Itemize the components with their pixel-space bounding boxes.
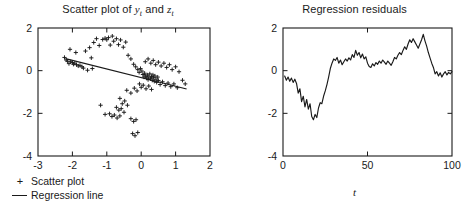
legend-label-regression: Regression line: [28, 188, 103, 202]
svg-text:-4: -4: [268, 150, 277, 162]
svg-text:0: 0: [271, 64, 277, 76]
svg-text:-1: -1: [102, 159, 111, 171]
scatter-points: [62, 34, 187, 138]
svg-text:2: 2: [271, 22, 277, 34]
svg-text:1: 1: [173, 159, 179, 171]
legend-item-regression: Regression line: [12, 188, 103, 202]
legend-item-scatter: + Scatter plot: [12, 174, 103, 188]
svg-text:2: 2: [207, 159, 213, 171]
regression-line: [66, 59, 187, 89]
line-segment-icon: [12, 189, 28, 201]
svg-text:-2: -2: [23, 107, 32, 119]
svg-text:-3: -3: [33, 159, 42, 171]
scatter-plot-legend: + Scatter plot Regression line: [12, 174, 103, 202]
residuals-plot-canvas: 050100-4-202: [236, 0, 473, 214]
residuals-x-axis-label: t: [236, 186, 473, 198]
statistical-figure: Scatter plot of yt and zt -3-2-1012-4-20…: [0, 0, 473, 214]
svg-text:-2: -2: [68, 159, 77, 171]
legend-label-scatter: Scatter plot: [28, 174, 84, 188]
residuals-plot-panel: Regression residuals 050100-4-202 et t: [236, 0, 473, 214]
svg-text:-4: -4: [23, 150, 32, 162]
svg-text:0: 0: [280, 159, 286, 171]
scatter-plot-panel: Scatter plot of yt and zt -3-2-1012-4-20…: [0, 0, 236, 214]
svg-text:0: 0: [138, 159, 144, 171]
svg-text:50: 50: [362, 159, 374, 171]
svg-text:0: 0: [26, 64, 32, 76]
plus-marker-icon: +: [12, 174, 28, 188]
svg-text:2: 2: [26, 22, 32, 34]
svg-text:-2: -2: [268, 107, 277, 119]
residual-series-line: [285, 34, 452, 119]
svg-text:100: 100: [443, 159, 461, 171]
